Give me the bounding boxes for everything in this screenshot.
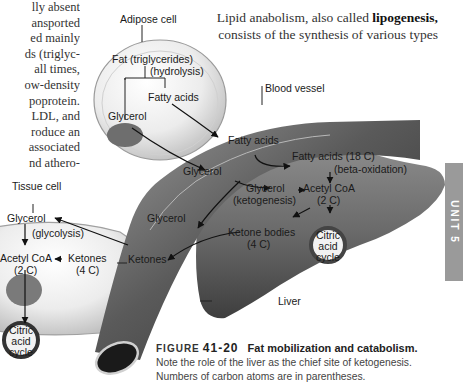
ketones-vessel-label: Ketones	[128, 253, 167, 265]
fat-mobilization-diagram: Adipose cell Fat (triglycerides) (hydrol…	[0, 0, 463, 387]
caption-line: Numbers of carbon atoms are in parenthes…	[156, 370, 456, 384]
liver-label: Liver	[278, 295, 301, 307]
figure-caption: FIGURE 41-20 Fat mobilization and catabo…	[156, 341, 456, 384]
glycolysis-label: (glycolysis)	[32, 227, 84, 239]
ketogenesis-label: (ketogenesis)	[233, 194, 296, 206]
glycerol-liver-label: Glycerol	[246, 182, 285, 194]
fatty-acids-vessel-label: Fatty acids	[228, 134, 279, 146]
acetyl-coa-tissue-label: Acetyl CoA	[0, 252, 52, 264]
figure-number: 41-20	[203, 341, 239, 355]
glycerol-adipose-label: Glycerol	[108, 110, 147, 122]
blood-vessel-label: Blood vessel	[265, 82, 325, 94]
unit-tab: UNIT 5	[445, 163, 463, 281]
ketone-bodies-label: Ketone bodies	[228, 226, 295, 238]
caption-line: Note the role of the liver as the chief …	[156, 356, 456, 370]
citric-cycle-liver-text: cycle	[316, 251, 340, 263]
tissue-cell-label: Tissue cell	[12, 180, 61, 192]
glycerol-vessel-upper-label: Glycerol	[183, 165, 222, 177]
hydrolysis-label: (hydrolysis)	[150, 65, 204, 77]
beta-oxidation-label: (beta-oxidation)	[334, 163, 407, 175]
figure-title: Fat mobilization and catabolism.	[248, 342, 418, 354]
acetyl-coa-liver-carbons: (2 C)	[317, 194, 340, 206]
ketones-tissue-carbons: (4 C)	[76, 264, 99, 276]
nucleus	[107, 123, 143, 147]
glycerol-vessel-lower-label: Glycerol	[147, 212, 186, 224]
citric-cycle-tissue-text: cycle	[9, 346, 33, 358]
acetyl-coa-tissue-carbons: (2 C)	[14, 264, 37, 276]
fat-triglycerides-label: Fat (triglycerides)	[112, 53, 193, 65]
nucleus	[6, 274, 42, 306]
adipose-cell-label: Adipose cell	[120, 13, 177, 25]
acetyl-coa-liver-label: Acetyl CoA	[303, 182, 355, 194]
ketones-tissue-label: Ketones	[68, 252, 107, 264]
figure-word: FIGURE	[156, 343, 200, 354]
glycerol-tissue-label: Glycerol	[7, 212, 46, 224]
ketone-bodies-carbons: (4 C)	[247, 238, 270, 250]
fatty-acids-adipose-label: Fatty acids	[148, 91, 199, 103]
fatty-acids-18c-label: Fatty acids (18 C)	[292, 150, 375, 162]
unit-tab-label: UNIT 5	[449, 200, 460, 244]
